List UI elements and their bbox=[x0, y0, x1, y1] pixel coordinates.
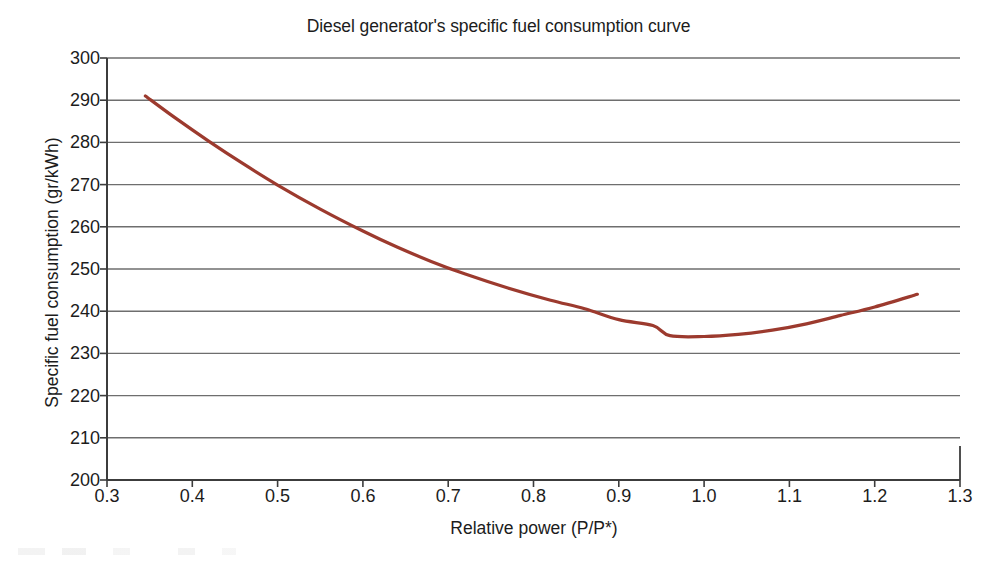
y-tick-label: 300 bbox=[44, 48, 100, 69]
series-line-specific-fuel-consumption bbox=[145, 96, 917, 337]
y-tick-label: 280 bbox=[44, 132, 100, 153]
y-axis-tick-labels: 200210220230240250260270280290300 bbox=[44, 0, 100, 562]
x-tick-label: 1.2 bbox=[845, 486, 905, 507]
x-tick-label: 1.1 bbox=[759, 486, 819, 507]
y-tick-label: 290 bbox=[44, 90, 100, 111]
grid-lines bbox=[107, 58, 960, 438]
x-tick-label: 1.3 bbox=[930, 486, 990, 507]
scan-artifact bbox=[18, 548, 358, 555]
x-axis-label: Relative power (P/P*) bbox=[107, 518, 961, 539]
x-tick-label: 0.3 bbox=[77, 486, 137, 507]
x-tick-label: 0.9 bbox=[589, 486, 649, 507]
y-tick-label: 260 bbox=[44, 216, 100, 237]
data-series-line bbox=[145, 96, 917, 337]
y-tick-label: 270 bbox=[44, 174, 100, 195]
plot-canvas bbox=[0, 0, 997, 562]
y-tick-label: 240 bbox=[44, 301, 100, 322]
x-tick-label: 0.8 bbox=[504, 486, 564, 507]
x-tick-label: 0.4 bbox=[162, 486, 222, 507]
y-tick-label: 220 bbox=[44, 385, 100, 406]
x-tick-label: 0.7 bbox=[418, 486, 478, 507]
x-tick-label: 0.6 bbox=[333, 486, 393, 507]
y-tick-label: 250 bbox=[44, 259, 100, 280]
x-tick-label: 0.5 bbox=[248, 486, 308, 507]
y-tick-label: 210 bbox=[44, 427, 100, 448]
chart-figure: Diesel generator's specific fuel consump… bbox=[0, 0, 997, 562]
y-tick-label: 230 bbox=[44, 343, 100, 364]
axis-ticks bbox=[100, 58, 960, 487]
x-tick-label: 1.0 bbox=[674, 486, 734, 507]
chart-title: Diesel generator's specific fuel consump… bbox=[0, 16, 997, 37]
